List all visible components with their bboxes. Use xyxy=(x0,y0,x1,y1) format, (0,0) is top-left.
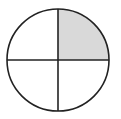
fraction-circle-diagram xyxy=(0,0,121,119)
